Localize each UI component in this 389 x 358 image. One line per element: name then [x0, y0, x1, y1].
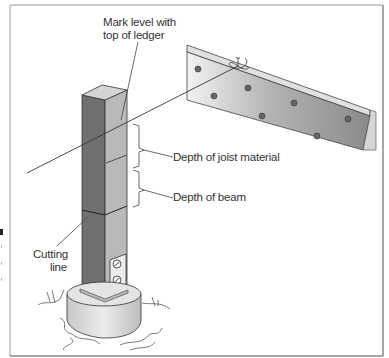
label-cutting-line-line1: Cutting: [33, 248, 67, 261]
concrete-footing: [67, 282, 141, 338]
ledger-board: [187, 45, 376, 150]
margin-marks: [0, 229, 3, 281]
label-mark-level: Mark level with top of ledger: [103, 16, 176, 42]
diagram-svg: [0, 0, 389, 358]
label-mark-level-line1: Mark level with: [103, 16, 176, 29]
diagram-canvas: Mark level with top of ledger Depth of j…: [0, 0, 389, 358]
label-depth-joist: Depth of joist material: [173, 151, 280, 164]
label-cutting-line: Cutting line: [33, 248, 67, 274]
label-depth-beam: Depth of beam: [173, 191, 246, 204]
anchor-bolt-icon: [113, 260, 121, 268]
label-cutting-line-line2: line: [33, 261, 67, 274]
label-mark-level-line2: top of ledger: [103, 29, 176, 42]
